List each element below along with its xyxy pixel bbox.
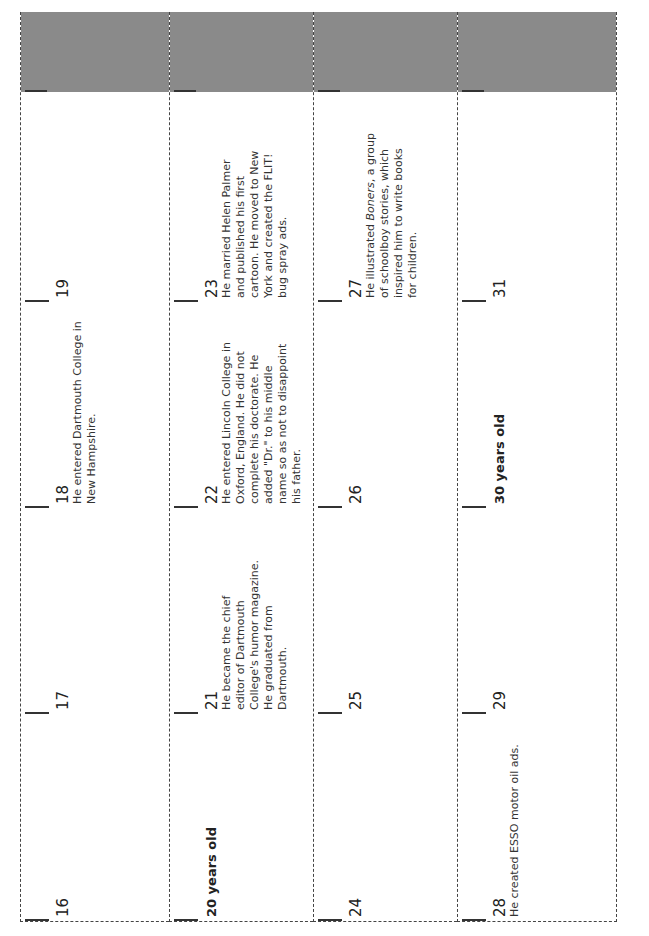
year-label: 16 <box>55 898 71 917</box>
band-tick <box>25 91 47 93</box>
timeline-row-20-23: 20 years old 21 He became the chief edit… <box>169 12 313 922</box>
band-tick <box>174 91 196 93</box>
year-tick <box>462 507 486 509</box>
year-label: 28 <box>492 898 508 917</box>
year-cell-30: 30 years old <box>458 306 616 508</box>
year-tick <box>25 507 49 509</box>
year-tick <box>462 301 486 303</box>
year-tick <box>25 713 49 715</box>
header-band <box>314 12 457 92</box>
year-description: He illustrated Boners, a group of school… <box>364 133 420 298</box>
timeline-row-24-27: 24 25 26 27 He illustrated Boners, a gro… <box>313 12 457 922</box>
year-description: He entered Lincoln College in Oxford, En… <box>220 334 304 504</box>
year-tick <box>25 301 49 303</box>
year-tick <box>174 920 198 922</box>
header-band <box>458 12 616 92</box>
year-cell-29: 29 <box>458 512 616 714</box>
year-label: 27 <box>348 279 364 298</box>
year-tick <box>318 920 342 922</box>
band-tick <box>318 91 340 93</box>
year-label: 21 <box>204 691 220 710</box>
year-cell-26: 26 <box>314 306 457 508</box>
year-cell-20: 20 years old <box>170 719 313 921</box>
band-tick <box>462 91 484 93</box>
year-cell-16: 16 <box>21 719 169 921</box>
milestone-label: 20 years old <box>204 827 220 917</box>
year-tick <box>318 507 342 509</box>
year-tick <box>174 301 198 303</box>
year-label: 23 <box>204 279 220 298</box>
header-band <box>170 12 313 92</box>
year-cell-24: 24 <box>314 719 457 921</box>
year-tick <box>462 920 486 922</box>
year-tick <box>462 713 486 715</box>
year-cell-17: 17 <box>21 512 169 714</box>
year-tick <box>174 713 198 715</box>
year-label: 24 <box>348 898 364 917</box>
year-description: He became the chief editor of Dartmouth … <box>220 560 290 710</box>
year-cell-27: 27 He illustrated Boners, a group of sch… <box>314 102 457 302</box>
year-cell-18: 18 He entered Dartmouth College in New H… <box>21 306 169 508</box>
year-description: He created ESSO motor oil ads. <box>508 697 522 917</box>
year-cell-21: 21 He became the chief editor of Dartmou… <box>170 512 313 714</box>
timeline-page: 16 17 18 He entered Dartmouth College in… <box>0 0 649 936</box>
year-label: 22 <box>204 485 220 504</box>
year-label: 29 <box>492 691 508 710</box>
year-label: 18 <box>55 485 71 504</box>
year-cell-25: 25 <box>314 512 457 714</box>
year-tick <box>318 713 342 715</box>
year-label: 31 <box>492 279 508 298</box>
year-label: 17 <box>55 691 71 710</box>
year-cell-31: 31 <box>458 102 616 302</box>
year-label: 26 <box>348 485 364 504</box>
header-band <box>21 12 169 92</box>
year-tick <box>25 920 49 922</box>
book-title: Boners <box>364 182 377 220</box>
year-description: He entered Dartmouth College in New Hamp… <box>71 304 99 504</box>
timeline-row-28-31: 28 He created ESSO motor oil ads. 29 30 … <box>457 12 617 922</box>
year-tick <box>174 507 198 509</box>
year-cell-28: 28 He created ESSO motor oil ads. <box>458 719 616 921</box>
timeline-row-16-19: 16 17 18 He entered Dartmouth College in… <box>20 12 169 922</box>
year-label: 25 <box>348 691 364 710</box>
year-label: 19 <box>55 279 71 298</box>
milestone-label: 30 years old <box>492 414 508 504</box>
year-cell-19: 19 <box>21 102 169 302</box>
year-cell-23: 23 He married Helen Palmer and published… <box>170 102 313 302</box>
year-description: He married Helen Palmer and published hi… <box>220 138 290 298</box>
year-tick <box>318 301 342 303</box>
year-cell-22: 22 He entered Lincoln College in Oxford,… <box>170 306 313 508</box>
